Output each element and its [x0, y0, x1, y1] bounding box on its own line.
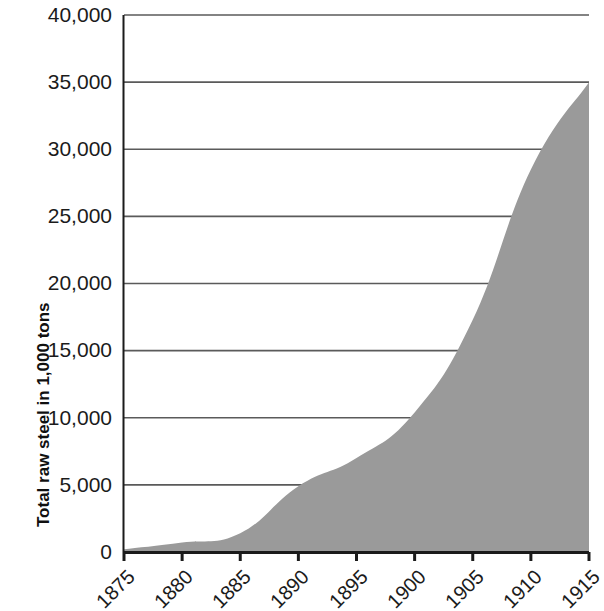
x-tick-label: 1875: [86, 566, 138, 611]
x-tick-label: 1890: [260, 566, 312, 611]
x-tick-label: 1900: [376, 566, 428, 611]
x-tick-label: 1895: [318, 566, 370, 611]
chart-container: Total raw steel in 1,000 tons 40,000 35,…: [0, 0, 604, 611]
x-tick-label: 1910: [493, 566, 545, 611]
x-tick-label: 1905: [435, 566, 487, 611]
x-axis-tick-labels: 187518801885189018951900190519101915: [0, 0, 604, 611]
x-tick-label: 1885: [202, 566, 254, 611]
x-tick-label: 1915: [551, 566, 603, 611]
x-tick-label: 1880: [144, 566, 196, 611]
